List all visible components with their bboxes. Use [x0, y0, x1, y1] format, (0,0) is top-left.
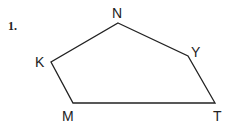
problem-number: 1. [8, 19, 17, 33]
vertex-labels: N Y T M K [35, 5, 222, 124]
vertex-label-t: T [213, 108, 222, 124]
pentagon-shape [51, 23, 215, 103]
vertex-label-m: M [62, 108, 74, 124]
vertex-label-n: N [112, 5, 122, 21]
vertex-label-k: K [35, 54, 45, 70]
vertex-label-y: Y [191, 44, 201, 60]
pentagon-diagram: 1. N Y T M K [0, 0, 238, 131]
